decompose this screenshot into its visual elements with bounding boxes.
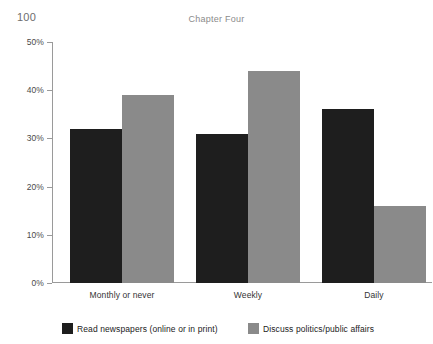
bar <box>196 134 248 283</box>
legend-label: Read newspapers (online or in print) <box>77 324 218 334</box>
y-axis-tick-label: 40% <box>4 85 44 95</box>
y-axis-tick-label: 0% <box>4 278 44 288</box>
legend: Read newspapers (online or in print) Dis… <box>0 321 433 337</box>
legend-item-series-b[interactable]: Discuss politics/public affairs <box>248 321 374 336</box>
bar <box>70 129 122 283</box>
y-axis-tick-label: 50% <box>4 37 44 47</box>
x-axis-category-label: Monthly or never <box>62 290 182 300</box>
running-head: Chapter Four <box>0 14 433 24</box>
y-axis-tick-mark <box>47 283 52 284</box>
legend-item-series-a[interactable]: Read newspapers (online or in print) <box>62 321 218 336</box>
legend-swatch-icon <box>248 323 259 334</box>
x-axis-category-label: Daily <box>314 290 433 300</box>
bar <box>122 95 174 283</box>
x-axis-category-label: Weekly <box>188 290 308 300</box>
bar <box>322 109 374 283</box>
bars-layer <box>52 42 432 283</box>
y-axis-tick-label: 10% <box>4 230 44 240</box>
legend-swatch-icon <box>62 323 73 334</box>
bar <box>374 206 426 283</box>
bar-chart: 100 Chapter Four 0%10%20%30%40%50% Month… <box>0 0 433 344</box>
y-axis-tick-label: 20% <box>4 182 44 192</box>
y-axis-tick-label: 30% <box>4 133 44 143</box>
legend-label: Discuss politics/public affairs <box>263 324 374 334</box>
bar <box>248 71 300 283</box>
